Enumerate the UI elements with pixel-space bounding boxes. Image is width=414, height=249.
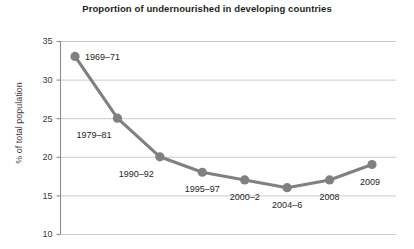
data-point-marker xyxy=(155,152,164,161)
y-axis-tick-label: 10 xyxy=(42,229,52,239)
data-point-label: 2008 xyxy=(320,192,340,202)
plot-area: 101520253035 1969–711979–811990–921995–9… xyxy=(0,0,414,249)
y-axis-tick-label: 20 xyxy=(42,152,52,162)
data-point-marker xyxy=(113,114,122,123)
data-point-marker xyxy=(198,168,207,177)
y-axis-tick-label: 30 xyxy=(42,75,52,85)
chart-container: Proportion of undernourished in developi… xyxy=(0,0,414,249)
y-axis-tick-label: 25 xyxy=(42,114,52,124)
y-axis-tickmarks xyxy=(57,42,61,235)
y-axis-tick-labels: 101520253035 xyxy=(42,36,52,239)
data-point-marker xyxy=(70,52,79,61)
data-point-marker xyxy=(325,175,334,184)
data-point-marker xyxy=(283,183,292,192)
data-point-label: 2000–2 xyxy=(230,192,260,202)
data-point-label: 1990–92 xyxy=(119,169,154,179)
y-axis-tick-label: 15 xyxy=(42,191,52,201)
data-point-labels: 1969–711979–811990–921995–972000–22004–6… xyxy=(76,52,380,210)
data-point-label: 2004–6 xyxy=(272,200,302,210)
data-point-label: 1995–97 xyxy=(185,184,220,194)
data-point-label: 2009 xyxy=(360,177,380,187)
data-point-markers xyxy=(70,52,376,192)
y-axis-tick-label: 35 xyxy=(42,36,52,46)
data-point-marker xyxy=(367,160,376,169)
data-point-label: 1979–81 xyxy=(76,130,111,140)
data-point-label: 1969–71 xyxy=(85,52,120,62)
data-point-marker xyxy=(240,175,249,184)
